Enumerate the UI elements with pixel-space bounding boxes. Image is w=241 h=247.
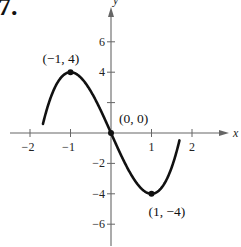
point-label: (−1, 4) — [43, 51, 80, 66]
y-tick-label: 6 — [99, 35, 105, 49]
x-axis-arrow-icon — [219, 130, 229, 136]
function-graph: xy −2−112−6−4−246 (−1, 4)(0, 0)(1, −4) — [0, 0, 241, 247]
y-axis-label: y — [112, 0, 119, 7]
y-tick-label: −6 — [92, 217, 105, 231]
point-marker — [108, 130, 114, 136]
x-tick-label: 2 — [189, 140, 195, 154]
y-tick-label: −4 — [92, 187, 105, 201]
point-marker — [149, 191, 155, 197]
y-tick-label: −2 — [92, 156, 105, 170]
x-axis-label: x — [232, 126, 239, 140]
y-tick-label: 4 — [99, 65, 105, 79]
x-tick-label: −2 — [22, 140, 35, 154]
y-axis-arrow-icon — [108, 7, 114, 17]
point-label: (0, 0) — [119, 111, 148, 126]
point-marker — [68, 69, 74, 75]
x-tick-label: −1 — [62, 140, 75, 154]
x-tick-label: 1 — [149, 140, 155, 154]
point-label: (1, −4) — [149, 204, 186, 219]
